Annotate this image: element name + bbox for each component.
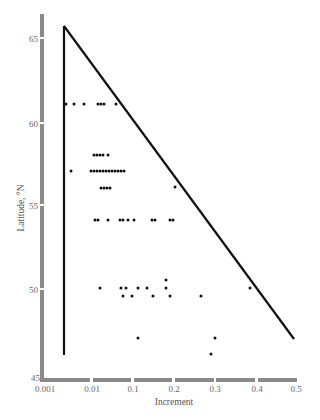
y-tick-60: 60 (29, 119, 39, 129)
y-axis-title: Latitude, °N (16, 184, 26, 231)
data-points (65, 103, 252, 356)
y-tick-55: 55 (29, 201, 39, 211)
scatter-chart: 65 60 55 50 45 0.001 0.01 0.1 0.2 0.3 0.… (0, 0, 320, 420)
x-axis (40, 378, 297, 382)
x-tick-0.3: 0.3 (209, 384, 221, 394)
x-tick-0.1: 0.1 (127, 384, 138, 394)
x-tick-0.5: 0.5 (290, 384, 302, 394)
triangle-envelope (64, 26, 294, 355)
y-tick-labels: 65 60 55 50 45 (29, 34, 41, 383)
y-tick-45: 45 (31, 373, 41, 383)
x-tick-0.01: 0.01 (84, 384, 100, 394)
x-tick-0.4: 0.4 (251, 384, 263, 394)
x-tick-0.001: 0.001 (35, 384, 55, 394)
y-tick-65: 65 (29, 34, 39, 44)
y-axis (40, 14, 44, 382)
x-tick-0.2: 0.2 (168, 384, 179, 394)
x-tick-labels: 0.001 0.01 0.1 0.2 0.3 0.4 0.5 (35, 384, 302, 394)
y-tick-50: 50 (29, 285, 39, 295)
x-axis-title: Increment (155, 397, 194, 407)
